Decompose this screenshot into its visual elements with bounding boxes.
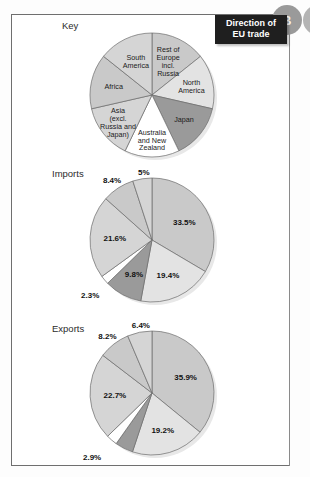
- pie-svg: 33.5%19.4%9.8%2.3%21.6%8.4%5%: [80, 168, 224, 312]
- chart-title-key: Key: [62, 20, 78, 31]
- section-badge-next[interactable]: [303, 5, 310, 35]
- pie-slice-value-label: 5%: [138, 168, 150, 177]
- pie-slice-value-label: 19.2%: [151, 426, 174, 435]
- pie-slice-value-label: 2.9%: [83, 453, 101, 462]
- pie-slice-value-label: 8.2%: [98, 332, 116, 341]
- pie-slice-name-label: Russia: [157, 69, 179, 78]
- pie-slice-value-label: 2.3%: [81, 291, 99, 300]
- pie-slice-value-label: 9.8%: [125, 270, 143, 279]
- pie-slice-value-label: 6.4%: [132, 321, 150, 330]
- caption-line-1: Direction of: [217, 18, 285, 29]
- pie-slice-name-label: Japan: [174, 115, 194, 124]
- pie-slice-name-label: America: [178, 86, 204, 95]
- pie-slice-value-label: 21.6%: [104, 234, 127, 243]
- page-spine-rule: [289, 20, 290, 466]
- pie-chart-exports: 35.9%19.2%4.7%2.9%22.7%8.2%6.4%: [80, 321, 224, 465]
- pie-slice-name-label: Japan): [107, 130, 129, 139]
- pie-slice-value-label: 22.7%: [104, 391, 127, 400]
- pie-slice-value-label: 35.9%: [174, 373, 197, 382]
- pie-slice-name-label: America: [123, 61, 149, 70]
- pie-slice-name-label: Africa: [105, 82, 123, 91]
- pie-slice-value-label: 8.4%: [103, 176, 121, 185]
- pie-slice-value-label: 19.4%: [157, 271, 180, 280]
- caption-line-2: EU trade: [217, 29, 285, 40]
- pie-slice-name-label: Zealand: [139, 143, 165, 152]
- page-canvas: B Direction of EU trade Key Imports Expo…: [0, 0, 310, 477]
- pie-chart-key: Rest ofEuropeincl.RussiaNorthAmericaJapa…: [80, 23, 224, 167]
- caption-direction-of-eu-trade: Direction of EU trade: [215, 15, 287, 44]
- pie-svg: Rest ofEuropeincl.RussiaNorthAmericaJapa…: [80, 23, 224, 167]
- chart-title-imports: Imports: [52, 168, 84, 179]
- pie-svg: 35.9%19.2%4.7%2.9%22.7%8.2%6.4%: [80, 321, 224, 465]
- pie-slice-value-label: 33.5%: [173, 218, 196, 227]
- pie-chart-imports: 33.5%19.4%9.8%2.3%21.6%8.4%5%: [80, 168, 224, 312]
